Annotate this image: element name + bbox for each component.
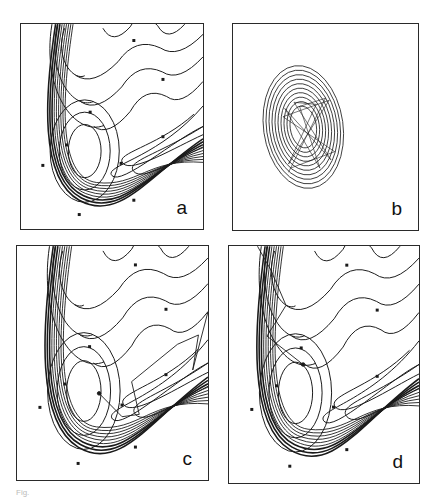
- panel-label: c: [183, 449, 193, 468]
- panel-c: c: [16, 245, 209, 481]
- figure-caption: Fig.: [16, 488, 29, 497]
- panel-a: a: [20, 23, 204, 230]
- contour-lines: [250, 246, 419, 468]
- panel-d: d: [228, 245, 420, 484]
- panel-label: a: [176, 198, 187, 217]
- contour-plot: [233, 24, 418, 230]
- elliptic-contours: [255, 60, 351, 193]
- contour-lines: [41, 24, 203, 216]
- contour-plot: [229, 246, 419, 483]
- contour-lines: [38, 246, 208, 465]
- panel-label: b: [391, 199, 402, 218]
- contour-plot: [17, 246, 208, 480]
- panel-label: d: [392, 452, 403, 471]
- panel-b: b: [232, 23, 419, 231]
